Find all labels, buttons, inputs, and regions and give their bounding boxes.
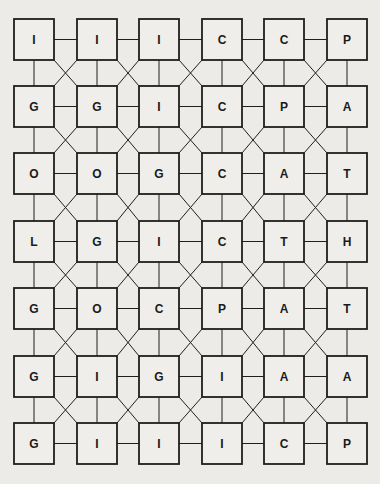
letter-box: A (327, 356, 367, 397)
box-letter: G (29, 370, 38, 384)
letter-box: T (327, 288, 367, 329)
letter-box: G (77, 221, 117, 262)
letter-box: G (77, 86, 117, 127)
letter-box: G (139, 356, 179, 397)
letter-box: C (264, 19, 304, 60)
letter-box: A (264, 153, 304, 194)
box-letter: G (29, 302, 38, 316)
letter-box: I (77, 19, 117, 60)
box-letter: I (157, 33, 160, 47)
box-letter: T (343, 302, 351, 316)
box-letter: C (218, 167, 227, 181)
box-letter: O (29, 167, 38, 181)
letter-box: I (14, 19, 54, 60)
box-letter: A (280, 167, 289, 181)
letter-box: C (202, 19, 242, 60)
box-letter: A (280, 370, 289, 384)
box-letter: O (92, 167, 101, 181)
letter-box: A (327, 86, 367, 127)
letter-box: T (264, 221, 304, 262)
letter-box: C (202, 221, 242, 262)
box-letter: C (218, 33, 227, 47)
letter-box: H (327, 221, 367, 262)
letter-box: G (14, 86, 54, 127)
letter-box: A (264, 288, 304, 329)
box-letter: G (29, 100, 38, 114)
box-letter: G (92, 100, 101, 114)
box-letter: T (343, 167, 351, 181)
box-letter: C (155, 302, 164, 316)
box-letter: I (220, 437, 223, 451)
box-letter: C (218, 235, 227, 249)
box-letter: L (30, 235, 37, 249)
box-letter: I (95, 33, 98, 47)
letter-box: C (264, 423, 304, 464)
letter-box: P (202, 288, 242, 329)
letter-box: I (139, 19, 179, 60)
box-letter: P (343, 33, 351, 47)
letter-box: O (77, 288, 117, 329)
box-letter: I (157, 437, 160, 451)
letter-box: G (14, 423, 54, 464)
box-letter: I (95, 370, 98, 384)
box-letter: O (92, 302, 101, 316)
letter-box: O (14, 153, 54, 194)
box-letter: P (280, 100, 288, 114)
letter-box: I (77, 423, 117, 464)
box-letter: C (280, 437, 289, 451)
box-letter: P (218, 302, 226, 316)
letter-box: P (327, 423, 367, 464)
box-letter: I (157, 100, 160, 114)
box-letter: G (29, 437, 38, 451)
letter-box: C (139, 288, 179, 329)
letter-box: L (14, 221, 54, 262)
letter-box: G (139, 153, 179, 194)
letter-box: C (202, 153, 242, 194)
letter-box: G (14, 356, 54, 397)
letter-box: P (327, 19, 367, 60)
box-letter: H (343, 235, 352, 249)
box-letter: G (154, 167, 163, 181)
box-letter: A (280, 302, 289, 316)
box-letter: C (218, 100, 227, 114)
letter-box: O (77, 153, 117, 194)
letter-box: I (202, 356, 242, 397)
box-letter: C (280, 33, 289, 47)
letter-grid-diagram: IIICCPGGICPAOOGCATLGICTHGOCPATGIGIAAGIII… (0, 0, 380, 484)
letter-box: I (202, 423, 242, 464)
box-letter: I (157, 235, 160, 249)
letter-box: I (77, 356, 117, 397)
box-letter: I (220, 370, 223, 384)
letter-box: I (139, 423, 179, 464)
letter-box: C (202, 86, 242, 127)
box-letter: G (92, 235, 101, 249)
box-letter: I (95, 437, 98, 451)
letter-box: P (264, 86, 304, 127)
box-letter: G (154, 370, 163, 384)
box-letter: I (32, 33, 35, 47)
letter-box: G (14, 288, 54, 329)
letter-box: I (139, 221, 179, 262)
letter-box: I (139, 86, 179, 127)
box-letter: A (343, 100, 352, 114)
box-letter: T (280, 235, 288, 249)
box-letter: A (343, 370, 352, 384)
box-letter: P (343, 437, 351, 451)
letter-box: T (327, 153, 367, 194)
letter-box: A (264, 356, 304, 397)
